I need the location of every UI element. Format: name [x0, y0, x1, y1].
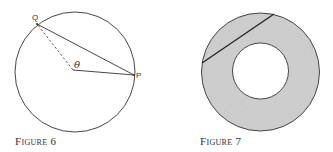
- point-q: [36, 23, 38, 25]
- label-p: P: [136, 71, 141, 80]
- figure-6: Q P θ: [15, 12, 141, 132]
- figure-7-caption: Figure 7: [200, 135, 241, 147]
- radius-op: [73, 70, 134, 75]
- figure-7: [195, 8, 330, 138]
- figure-6-caption: Figure 6: [15, 135, 56, 147]
- point-p: [133, 74, 135, 76]
- radius-oq-dashed: [37, 24, 73, 70]
- inner-circle: [233, 43, 289, 99]
- label-q: Q: [32, 13, 38, 22]
- circle-outline: [15, 12, 135, 132]
- label-theta: θ: [74, 59, 80, 70]
- figures-canvas: Q P θ: [0, 0, 333, 152]
